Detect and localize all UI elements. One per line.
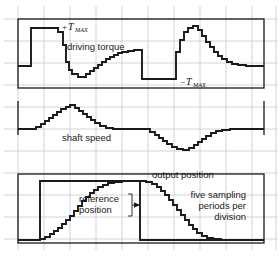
svg-text:MAX: MAX — [74, 26, 88, 33]
reference-position-label-line1: reference — [79, 193, 119, 204]
shaft-speed-label: shaft speed — [62, 132, 111, 143]
svg-text:−: − — [180, 77, 185, 87]
control-system-waveform-figure: + T MAX driving torque − T MAX shaft spe… — [0, 0, 280, 256]
output-position-label: output position — [152, 169, 214, 180]
svg-text:+: + — [62, 22, 67, 32]
reference-position-label-line2: position — [79, 204, 112, 215]
driving-torque-label: driving torque — [67, 41, 125, 52]
sampling-note-line3: division — [214, 211, 246, 222]
svg-text:MAX: MAX — [192, 81, 206, 88]
sampling-note-line2: periods per — [198, 200, 246, 211]
sampling-note-line1: five sampling — [191, 189, 246, 200]
